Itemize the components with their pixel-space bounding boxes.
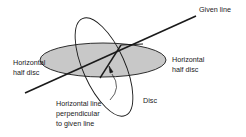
right-half-disc-label-2: half disc xyxy=(172,65,199,74)
diagram-canvas: Given line Horizontal half disc Horizont… xyxy=(0,0,246,137)
perpendicular-label-3: to given line xyxy=(56,119,94,128)
disc-label: Disc xyxy=(143,96,157,105)
given-line-label: Given line xyxy=(199,5,231,14)
right-half-disc-label-1: Horizontal xyxy=(172,55,205,64)
perpendicular-label-1: Horizontal line xyxy=(56,99,102,108)
horizontal-disc xyxy=(40,43,166,77)
perpendicular-label-2: perpendicular xyxy=(56,109,100,118)
left-half-disc-label-1: Horizontal xyxy=(13,58,46,67)
left-half-disc-label-2: half disc xyxy=(13,68,40,77)
perpendicular-leader-line xyxy=(110,74,117,100)
